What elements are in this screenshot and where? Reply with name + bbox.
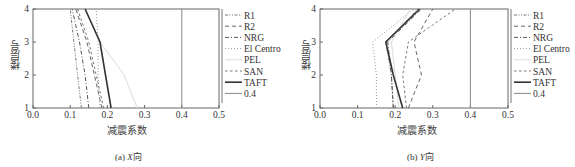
y-axis-label: 楼层号 [299,40,314,70]
y-tick-label: 4 [311,4,316,14]
x-axis-label: 减震系数 [107,122,147,137]
series-line-r1 [70,9,81,108]
x-tick-label: 0.2 [101,110,113,120]
x-tick-label: 0.3 [427,110,439,120]
y-tick-label: 1 [311,103,316,113]
y-tick-label: 2 [311,70,316,80]
y-tick-label: 3 [24,37,29,47]
y-tick-label: 4 [24,4,29,14]
chart-panel-y-direction: 0.00.10.20.30.40.51234R1R2NRGEl CentroPE… [287,0,575,167]
series-line-r2 [408,9,432,108]
caption-suffix: 向 [133,152,142,162]
x-tick-label: 0.4 [176,110,188,120]
x-axis-label: 减震系数 [397,122,437,137]
caption-suffix: 向 [425,152,434,162]
chart-plot-x: 0.00.10.20.30.40.51234R1R2NRGEl CentroPE… [0,0,288,167]
legend-label: SAN [533,67,552,77]
legend-label: TAFT [533,78,556,88]
y-tick-label: 1 [24,103,29,113]
chart-plot-y: 0.00.10.20.30.40.51234R1R2NRGEl CentroPE… [287,0,575,167]
legend-label: R2 [244,22,255,32]
legend-label: PEL [244,55,261,65]
y-axis-label: 楼层号 [8,40,23,70]
legend-label: R2 [533,22,544,32]
x-tick-label: 0.5 [502,110,514,120]
legend-label: R1 [244,11,255,21]
legend-label: NRG [533,33,553,43]
legend-label: SAN [244,67,263,77]
x-tick-label: 0.2 [389,110,401,120]
x-tick-label: 0.3 [139,110,151,120]
x-tick-label: 0.1 [64,110,76,120]
legend-label: 0.4 [244,89,256,99]
figure-caption-a: (a) X向 [115,150,142,163]
legend-label: El Centro [533,44,570,54]
x-tick-label: 0.4 [464,110,476,120]
legend-label: NRG [244,33,264,43]
plot-area-frame [33,9,219,108]
legend-label: R1 [533,11,544,21]
x-tick-label: 0.5 [213,110,225,120]
legend-label: TAFT [244,78,267,88]
series-line-pel [391,9,410,108]
legend-label: 0.4 [533,89,545,99]
legend-label: El Centro [244,44,281,54]
y-tick-label: 2 [24,70,29,80]
figure-caption-b: (b) Y向 [407,150,434,163]
series-line-san [403,9,456,108]
caption-prefix: (b) [407,152,420,162]
chart-panel-x-direction: 0.00.10.20.30.40.51234R1R2NRGEl CentroPE… [0,0,288,167]
legend-label: PEL [533,55,550,65]
caption-prefix: (a) [115,152,127,162]
x-tick-label: 0.1 [352,110,364,120]
